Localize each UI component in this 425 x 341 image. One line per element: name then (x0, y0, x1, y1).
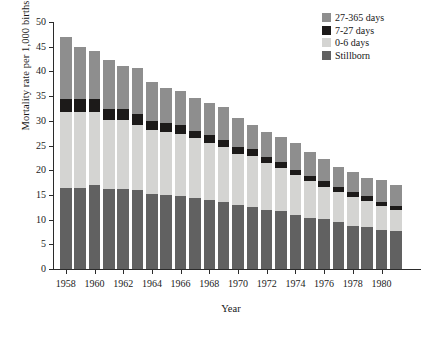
y-tick-mark (49, 22, 53, 23)
bar-segment-27-365-days (218, 107, 230, 140)
bar-segment-27-365-days (361, 178, 373, 197)
bar-segment-7-27-days (132, 114, 144, 125)
y-tick-label-group: 05101520253035404550 (20, 22, 46, 270)
x-axis-line (53, 269, 421, 270)
bar-1959 (74, 47, 86, 269)
x-tick-label: 1960 (85, 278, 105, 289)
bar-segment-stillborn (318, 219, 330, 269)
y-tick-mark (49, 146, 53, 147)
y-tick-label: 50 (20, 17, 46, 27)
y-tick-mark (49, 71, 53, 72)
bar-segment-0-6-days (204, 143, 216, 201)
bar-segment-7-27-days (232, 147, 244, 154)
legend-item[interactable]: 27-365 days (322, 12, 422, 23)
bar-segment-stillborn (218, 202, 230, 269)
legend-swatch-icon (322, 13, 331, 22)
bar-segment-0-6-days (304, 181, 316, 218)
bar-segment-27-365-days (304, 152, 316, 176)
bar-segment-stillborn (247, 207, 259, 269)
bar-1980 (376, 180, 388, 269)
x-tick-label: 1978 (343, 278, 363, 289)
bar-segment-stillborn (261, 210, 273, 269)
y-tick-mark (49, 244, 53, 245)
x-tick-label: 1958 (56, 278, 76, 289)
bar-segment-27-365-days (117, 66, 129, 109)
bar-segment-27-365-days (160, 88, 172, 123)
y-tick-label: 15 (20, 190, 46, 200)
bar-segment-7-27-days (60, 99, 72, 113)
y-tick-mark (49, 47, 53, 48)
bar-segment-7-27-days (89, 99, 101, 112)
bar-1976 (318, 159, 330, 269)
legend-item[interactable]: Stillborn (322, 50, 422, 61)
bar-segment-0-6-days (175, 134, 187, 196)
y-tick-mark (49, 121, 53, 122)
bar-segment-7-27-days (103, 109, 115, 120)
bar-segment-stillborn (175, 196, 187, 269)
bar-segment-7-27-days (117, 109, 129, 120)
legend-item[interactable]: 7-27 days (322, 25, 422, 36)
bar-segment-7-27-days (204, 135, 216, 143)
bar-1973 (275, 137, 287, 269)
figure-container: Mortality rate per 1,000 births 05101520… (0, 0, 425, 341)
x-tick-label: 1970 (228, 278, 248, 289)
bar-segment-0-6-days (318, 187, 330, 220)
bar-segment-stillborn (290, 215, 302, 269)
y-tick-mark (49, 269, 53, 270)
bar-segment-stillborn (361, 227, 373, 269)
bar-segment-27-365-days (189, 98, 201, 131)
legend-item[interactable]: 0-6 days (322, 37, 422, 48)
bar-segment-0-6-days (333, 192, 345, 222)
legend-swatch-icon (322, 38, 331, 47)
bar-segment-stillborn (333, 222, 345, 269)
bar-segment-0-6-days (89, 112, 101, 185)
bar-1981 (390, 185, 402, 269)
x-tick-label: 1972 (257, 278, 277, 289)
x-tick-mark (353, 270, 354, 274)
bar-segment-27-365-days (89, 51, 101, 98)
x-tick-label: 1968 (199, 278, 219, 289)
legend-label: Stillborn (335, 50, 370, 61)
x-tick-mark (209, 270, 210, 274)
y-tick-mark (49, 220, 53, 221)
legend-label: 0-6 days (335, 37, 369, 48)
bar-segment-0-6-days (275, 168, 287, 211)
x-tick-mark (152, 270, 153, 274)
bar-segment-27-365-days (390, 185, 402, 206)
bar-segment-stillborn (160, 195, 172, 269)
y-tick-label: 5 (20, 239, 46, 249)
x-tick-mark (95, 270, 96, 274)
x-tick-label: 1964 (142, 278, 162, 289)
x-tick-label: 1980 (372, 278, 392, 289)
bar-segment-stillborn (146, 194, 158, 269)
bar-segment-0-6-days (146, 130, 158, 194)
bar-1971 (247, 125, 259, 269)
x-tick-mark (267, 270, 268, 274)
bar-segment-stillborn (376, 230, 388, 269)
y-tick-label: 0 (20, 264, 46, 274)
bar-segment-stillborn (390, 231, 402, 269)
x-tick-label: 1974 (285, 278, 305, 289)
y-tick-label: 10 (20, 215, 46, 225)
bar-segment-0-6-days (290, 175, 302, 215)
x-tick-mark (181, 270, 182, 274)
y-tick-label: 20 (20, 165, 46, 175)
bar-segment-stillborn (132, 190, 144, 269)
bar-segment-stillborn (275, 211, 287, 269)
bar-1962 (117, 66, 129, 269)
bar-segment-0-6-days (74, 112, 86, 188)
bar-1977 (333, 167, 345, 269)
bar-1960 (89, 51, 101, 269)
bar-segment-27-365-days (333, 167, 345, 187)
x-tick-mark (295, 270, 296, 274)
bar-segment-27-365-days (103, 60, 115, 110)
x-tick-mark (324, 270, 325, 274)
bar-segment-stillborn (89, 185, 101, 269)
bar-segment-0-6-days (247, 156, 259, 207)
bar-segment-stillborn (204, 200, 216, 269)
y-tick-label: 45 (20, 42, 46, 52)
y-tick-label: 30 (20, 116, 46, 126)
bar-segment-0-6-days (361, 201, 373, 227)
bar-segment-0-6-days (261, 163, 273, 210)
bar-segment-0-6-days (189, 138, 201, 198)
